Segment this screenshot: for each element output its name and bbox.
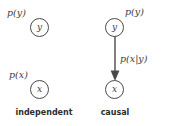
node-x-causal[interactable]: x — [105, 80, 124, 99]
node-x-independent-label: x — [31, 81, 48, 98]
probability-label-p-x-independent: p(x) — [9, 70, 28, 80]
figure-canvas: p(y) y p(x) x independent p(y) y p(x|y) … — [0, 0, 176, 126]
node-x-independent[interactable]: x — [30, 80, 49, 99]
probability-label-p-y-independent: p(y) — [7, 8, 26, 18]
panel-causal: p(y) y p(x|y) x causal — [88, 0, 176, 126]
node-x-causal-label: x — [106, 81, 123, 98]
node-y-independent-label: y — [31, 19, 48, 36]
caption-independent: independent — [4, 109, 84, 117]
probability-label-p-y-causal: p(y) — [125, 7, 144, 17]
node-y-causal[interactable]: y — [105, 18, 124, 37]
probability-label-p-x-given-y: p(x|y) — [120, 54, 147, 64]
caption-causal: causal — [88, 109, 142, 117]
panel-independent: p(y) y p(x) x independent — [0, 0, 88, 126]
node-y-independent[interactable]: y — [30, 18, 49, 37]
node-y-causal-label: y — [106, 19, 123, 36]
